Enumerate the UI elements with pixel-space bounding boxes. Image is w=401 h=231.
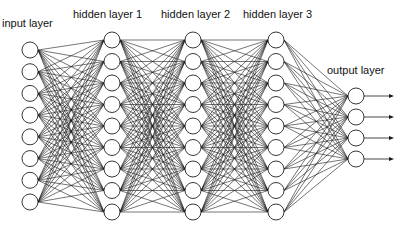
- hidden3-neuron: [268, 140, 284, 156]
- hidden3-neuron: [268, 97, 284, 113]
- hidden-layer-3-label: hidden layer 3: [243, 8, 312, 20]
- hidden3-neuron: [268, 75, 284, 91]
- input-neuron: [22, 151, 38, 167]
- input-neuron: [22, 64, 38, 80]
- hidden3-neuron: [268, 54, 284, 70]
- hidden2-neuron: [185, 161, 201, 177]
- input-neuron: [22, 194, 38, 210]
- connection-edge: [38, 40, 104, 115]
- hidden1-neuron: [104, 161, 120, 177]
- arrow-head-icon: [389, 136, 394, 140]
- hidden2-neuron: [185, 118, 201, 134]
- hidden3-neuron: [268, 204, 284, 220]
- hidden-layer-2-label: hidden layer 2: [161, 8, 230, 20]
- hidden2-neuron: [185, 204, 201, 220]
- input-neuron: [22, 42, 38, 58]
- output-layer-label: output layer: [327, 64, 384, 76]
- hidden1-neuron: [104, 204, 120, 220]
- hidden1-neuron: [104, 140, 120, 156]
- arrow-head-icon: [389, 157, 394, 161]
- input-layer-label: input layer: [2, 17, 53, 29]
- output-neuron: [348, 130, 364, 146]
- hidden3-neuron: [268, 32, 284, 48]
- hidden1-neuron: [104, 118, 120, 134]
- neural-network-diagram: [0, 0, 401, 231]
- hidden1-neuron: [104, 183, 120, 199]
- output-neuron: [348, 151, 364, 167]
- input-neuron: [22, 107, 38, 123]
- hidden2-neuron: [185, 97, 201, 113]
- hidden2-neuron: [185, 54, 201, 70]
- hidden1-neuron: [104, 32, 120, 48]
- hidden2-neuron: [185, 32, 201, 48]
- input-neuron: [22, 129, 38, 145]
- hidden3-neuron: [268, 118, 284, 134]
- hidden-layer-1-label: hidden layer 1: [73, 8, 142, 20]
- hidden1-neuron: [104, 97, 120, 113]
- output-arrows: [364, 94, 394, 161]
- hidden3-neuron: [268, 183, 284, 199]
- hidden1-neuron: [104, 54, 120, 70]
- arrow-head-icon: [389, 94, 394, 98]
- arrow-head-icon: [389, 115, 394, 119]
- output-neuron: [348, 88, 364, 104]
- hidden2-neuron: [185, 183, 201, 199]
- hidden2-neuron: [185, 75, 201, 91]
- connection-edge: [284, 96, 348, 169]
- hidden1-neuron: [104, 75, 120, 91]
- neuron-nodes: [22, 32, 364, 220]
- hidden2-neuron: [185, 140, 201, 156]
- hidden3-neuron: [268, 161, 284, 177]
- input-neuron: [22, 172, 38, 188]
- input-neuron: [22, 85, 38, 101]
- output-neuron: [348, 109, 364, 125]
